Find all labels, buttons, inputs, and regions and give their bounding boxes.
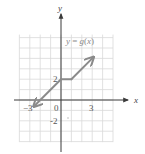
x-tick-label-3: 3 [89,103,94,113]
function-graph: x y y = g(x) −3 0 3 2 -2 [0,0,145,154]
y-axis-label: y [57,3,62,13]
stray-dot [67,117,68,118]
x-tick-label-0: 0 [54,103,59,113]
x-tick-label-neg3: −3 [23,103,33,113]
grid-lines [19,35,113,143]
function-label: y = g(x) [65,36,94,46]
y-tick-label-2: 2 [53,74,58,84]
y-tick-label-neg2: -2 [50,116,58,126]
x-axis-label: x [133,95,138,105]
function-curve [35,58,92,105]
